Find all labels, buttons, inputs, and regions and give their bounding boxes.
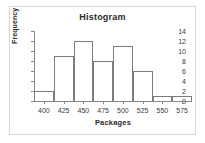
y-tick-mark [31, 61, 34, 62]
x-tick-label: 425 [58, 107, 70, 114]
histogram-bar [133, 71, 153, 101]
y-tick-mark [31, 31, 34, 32]
x-tick-label: 525 [137, 107, 149, 114]
y-tick-label: 6 [166, 68, 186, 75]
y-tick-mark [31, 91, 34, 92]
histogram-bar [93, 61, 113, 101]
y-tick-label: 14 [166, 28, 186, 35]
y-tick-label: 8 [166, 58, 186, 65]
y-tick-label: 4 [166, 78, 186, 85]
x-tick-label: 400 [38, 107, 50, 114]
y-tick-mark [31, 81, 34, 82]
y-tick-label: 12 [166, 38, 186, 45]
x-tick-mark [83, 101, 84, 104]
histogram-bar [113, 46, 133, 101]
y-tick-label: 2 [166, 88, 186, 95]
x-tick-mark [44, 101, 45, 104]
chart-title: Histogram [0, 12, 205, 22]
x-axis-label: Packages [34, 118, 192, 127]
x-tick-label: 550 [157, 107, 169, 114]
plot-inner: 02468101214 400425450475500525550575 [34, 31, 192, 101]
x-tick-label: 500 [117, 107, 129, 114]
x-tick-label: 475 [97, 107, 109, 114]
histogram-figure: Histogram Frequency 02468101214 40042545… [0, 0, 205, 143]
y-tick-mark [31, 71, 34, 72]
y-tick-label: 10 [166, 48, 186, 55]
x-tick-label: 575 [176, 107, 188, 114]
x-tick-label: 450 [78, 107, 90, 114]
x-tick-mark [162, 101, 163, 104]
y-tick-mark [31, 41, 34, 42]
histogram-bar [54, 56, 74, 101]
x-tick-mark [143, 101, 144, 104]
histogram-bar [34, 91, 54, 101]
x-tick-mark [64, 101, 65, 104]
y-tick-mark [31, 51, 34, 52]
y-tick-mark [31, 101, 34, 102]
x-tick-mark [182, 101, 183, 104]
histogram-bar [74, 41, 94, 101]
plot-area: 02468101214 400425450475500525550575 [34, 31, 192, 101]
x-tick-mark [123, 101, 124, 104]
y-axis-label: Frequency [11, 8, 18, 44]
x-tick-mark [103, 101, 104, 104]
